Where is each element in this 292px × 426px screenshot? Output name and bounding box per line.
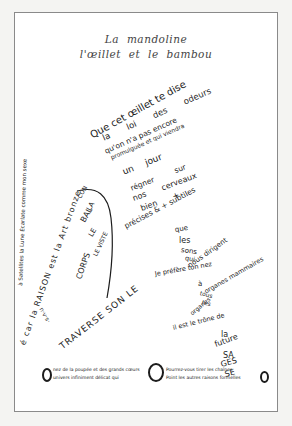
- bamboo-o-right: [260, 371, 269, 383]
- bamboo-text: nez de la poupée et des grands cœurs: [53, 368, 140, 373]
- bamboo-text: Point les autres raisons formelles: [166, 376, 241, 381]
- mandolin-neck-curve: [15, 13, 278, 412]
- poem-page: La mandoline l'œillet et le bambou Que c…: [14, 12, 278, 412]
- bamboo-o-left: [42, 368, 52, 382]
- bamboo-text: univers infiniment délicat qui: [53, 376, 119, 381]
- bamboo-text: Pourrez-vous tirer les chaînes: [166, 368, 232, 373]
- bamboo-o-center: [148, 363, 164, 382]
